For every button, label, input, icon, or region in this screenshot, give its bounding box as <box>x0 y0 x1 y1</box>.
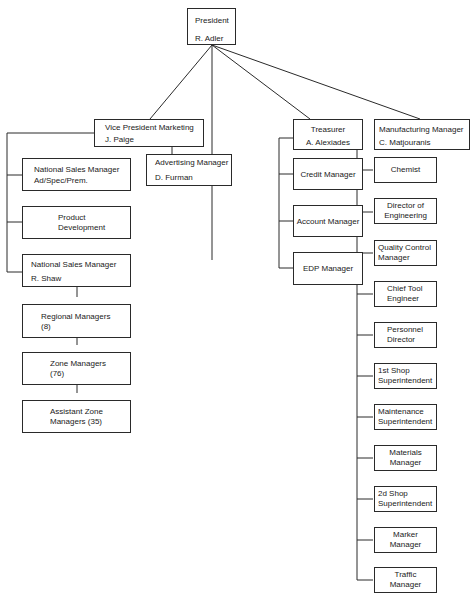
nsm-adspec-line2: Ad/Spec/Prem. <box>34 176 88 186</box>
first-shop-line2: Superintendent <box>378 376 432 386</box>
quality-control-line1: Quality Control <box>378 243 431 253</box>
president-title: President <box>195 16 229 26</box>
vp-marketing-box[interactable]: Vice President Marketing J. Paige <box>94 119 204 147</box>
zone-managers-box[interactable]: Zone Managers (76) <box>22 352 131 385</box>
quality-control-manager-box[interactable]: Quality Control Manager <box>374 240 437 266</box>
assistant-zone-line1: Assistant Zone <box>50 407 103 417</box>
personnel-director-box[interactable]: Personnel Director <box>374 322 437 348</box>
manufacturing-name: C. Matjouranis <box>379 138 431 148</box>
manufacturing-title: Manufacturing Manager <box>379 125 464 135</box>
personnel-line2: Director <box>387 335 415 345</box>
traffic-line2: Manager <box>375 580 436 590</box>
advertising-name: D. Furman <box>155 173 193 183</box>
chemist-label: Chemist <box>375 165 436 175</box>
advertising-title: Advertising Manager <box>155 158 228 168</box>
director-engineering-line1: Director of <box>375 201 436 211</box>
advertising-manager-box[interactable]: Advertising Manager D. Furman <box>146 154 232 186</box>
credit-manager-label: Credit Manager <box>294 170 362 180</box>
product-dev-line1: Product <box>58 213 86 223</box>
nsm-adspec-line1: National Sales Manager <box>34 165 119 175</box>
president-box[interactable]: President R. Adler <box>187 8 236 45</box>
marker-manager-box[interactable]: Marker Manager <box>374 527 437 553</box>
director-engineering-line2: Engineering <box>375 211 436 221</box>
assistant-zone-managers-box[interactable]: Assistant Zone Managers (35) <box>22 400 131 433</box>
maintenance-line1: Maintenance <box>378 407 424 417</box>
national-sales-manager-adspec-box[interactable]: National Sales Manager Ad/Spec/Prem. <box>22 158 131 191</box>
product-dev-line2: Development <box>58 223 105 233</box>
marker-line1: Marker <box>375 530 436 540</box>
nsm-shaw-title: National Sales Manager <box>31 260 116 270</box>
edp-manager-box[interactable]: EDP Manager <box>293 252 363 285</box>
manufacturing-manager-box[interactable]: Manufacturing Manager C. Matjouranis <box>374 119 470 150</box>
first-shop-line1: 1st Shop <box>378 366 410 376</box>
nsm-shaw-name: R. Shaw <box>31 274 61 284</box>
president-name: R. Adler <box>195 34 223 44</box>
zone-line2: (76) <box>50 369 64 379</box>
edp-manager-label: EDP Manager <box>294 264 362 274</box>
personnel-line1: Personnel <box>387 325 423 335</box>
second-shop-line1: 2d Shop <box>378 489 408 499</box>
account-manager-label: Account Manager <box>294 217 362 227</box>
vp-marketing-name: J. Paige <box>105 135 134 145</box>
zone-line1: Zone Managers <box>50 359 106 369</box>
materials-line1: Materials <box>375 448 436 458</box>
traffic-line1: Traffic <box>375 570 436 580</box>
second-shop-superintendent-box[interactable]: 2d Shop Superintendent <box>374 486 437 512</box>
maintenance-line2: Superintendent <box>378 417 432 427</box>
materials-manager-box[interactable]: Materials Manager <box>374 445 437 471</box>
quality-control-line2: Manager <box>378 253 410 263</box>
chief-tool-engineer-box[interactable]: Chief Tool Engineer <box>374 281 437 307</box>
first-shop-superintendent-box[interactable]: 1st Shop Superintendent <box>374 363 437 389</box>
assistant-zone-line2: Managers (35) <box>50 417 102 427</box>
maintenance-superintendent-box[interactable]: Maintenance Superintendent <box>374 404 437 430</box>
marker-line2: Manager <box>375 540 436 550</box>
vp-marketing-title: Vice President Marketing <box>105 123 194 133</box>
treasurer-box[interactable]: Treasurer A. Alexiades <box>293 119 363 150</box>
account-manager-box[interactable]: Account Manager <box>293 205 363 237</box>
regional-line1: Regional Managers <box>41 312 110 322</box>
treasurer-title: Treasurer <box>294 125 362 135</box>
regional-managers-box[interactable]: Regional Managers (8) <box>22 304 131 338</box>
treasurer-name: A. Alexiades <box>294 138 362 148</box>
traffic-manager-box[interactable]: Traffic Manager <box>374 567 437 593</box>
materials-line2: Manager <box>375 458 436 468</box>
regional-line2: (8) <box>41 322 51 332</box>
second-shop-line2: Superintendent <box>378 499 432 509</box>
credit-manager-box[interactable]: Credit Manager <box>293 158 363 190</box>
product-development-box[interactable]: Product Development <box>22 206 131 239</box>
national-sales-manager-shaw-box[interactable]: National Sales Manager R. Shaw <box>22 254 131 287</box>
director-of-engineering-box[interactable]: Director of Engineering <box>374 198 437 224</box>
chief-tool-line1: Chief Tool <box>387 284 422 294</box>
chemist-box[interactable]: Chemist <box>374 157 437 183</box>
chief-tool-line2: Engineer <box>387 294 419 304</box>
